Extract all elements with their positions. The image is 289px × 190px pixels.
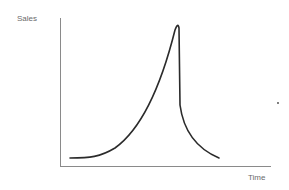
stray-dot xyxy=(277,102,279,104)
chart-canvas xyxy=(0,0,289,190)
sales-curve xyxy=(70,25,219,158)
